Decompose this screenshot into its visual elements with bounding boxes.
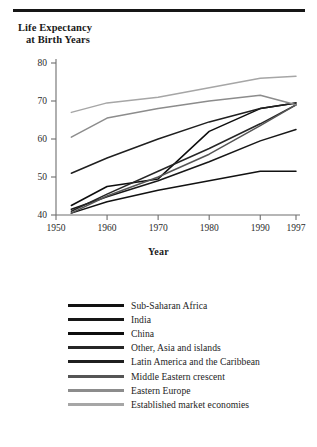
legend-item-label: Middle Eastern crescent xyxy=(131,371,225,382)
y-tick-label: 40 xyxy=(38,210,48,220)
chart-legend: Sub-Saharan AfricaIndiaChinaOther, Asia … xyxy=(0,298,317,412)
legend-line-swatch xyxy=(68,318,124,321)
legend-line-swatch xyxy=(68,375,124,378)
legend-item[interactable]: Sub-Saharan Africa xyxy=(0,298,317,312)
series-line xyxy=(71,103,296,173)
legend-swatch-cell xyxy=(0,375,131,378)
series-line xyxy=(71,103,296,206)
legend-line-swatch xyxy=(68,304,124,307)
y-tick-label: 50 xyxy=(38,172,48,182)
y-tick-label: 80 xyxy=(38,58,48,68)
legend-line-swatch xyxy=(68,332,124,335)
series-line xyxy=(71,105,296,211)
line-chart: 4050607080 195019601970198019901997 Year xyxy=(0,0,317,270)
legend-swatch-cell xyxy=(0,318,131,321)
series-line xyxy=(71,171,296,213)
legend-swatch-cell xyxy=(0,346,131,349)
legend-line-swatch xyxy=(68,403,124,406)
legend-item-label: India xyxy=(131,314,151,325)
chart-svg: 4050607080 195019601970198019901997 xyxy=(0,0,317,270)
series-line xyxy=(71,76,296,112)
series-lines xyxy=(71,76,296,213)
legend-item-label: Latin America and the Caribbean xyxy=(131,356,260,367)
figure-page: Life Expectancy at Birth Years 405060708… xyxy=(0,0,317,447)
legend-item-label: Established market economies xyxy=(131,399,249,410)
legend-item[interactable]: Other, Asia and islands xyxy=(0,341,317,355)
legend-line-swatch xyxy=(68,360,124,363)
legend-item-label: China xyxy=(131,328,154,339)
x-tick-label: 1960 xyxy=(98,223,117,233)
x-axis-ticks: 195019601970198019901997 xyxy=(47,215,306,233)
x-tick-label: 1990 xyxy=(251,223,270,233)
legend-swatch-cell xyxy=(0,332,131,335)
x-axis-title: Year xyxy=(148,246,169,257)
legend-item-label: Other, Asia and islands xyxy=(131,342,221,353)
legend-line-swatch xyxy=(68,389,124,392)
y-tick-label: 70 xyxy=(38,96,48,106)
legend-swatch-cell xyxy=(0,304,131,307)
legend-item[interactable]: Established market economies xyxy=(0,397,317,411)
x-tick-label: 1980 xyxy=(200,223,219,233)
legend-item-label: Sub-Saharan Africa xyxy=(131,300,207,311)
legend-item-label: Eastern Europe xyxy=(131,385,191,396)
x-tick-label: 1950 xyxy=(47,223,66,233)
legend-line-swatch xyxy=(68,346,124,349)
legend-swatch-cell xyxy=(0,360,131,363)
legend-swatch-cell xyxy=(0,389,131,392)
legend-item[interactable]: China xyxy=(0,326,317,340)
x-tick-label: 1970 xyxy=(149,223,168,233)
y-tick-label: 60 xyxy=(38,134,48,144)
legend-swatch-cell xyxy=(0,403,131,406)
y-axis-ticks: 4050607080 xyxy=(38,58,57,220)
legend-item[interactable]: Eastern Europe xyxy=(0,383,317,397)
legend-item[interactable]: Middle Eastern crescent xyxy=(0,369,317,383)
legend-item[interactable]: Latin America and the Caribbean xyxy=(0,355,317,369)
x-tick-label: 1997 xyxy=(287,223,306,233)
legend-item[interactable]: India xyxy=(0,312,317,326)
